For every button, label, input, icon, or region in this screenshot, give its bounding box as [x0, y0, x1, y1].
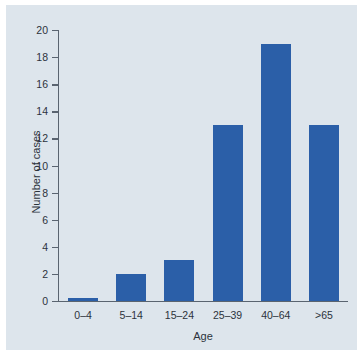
y-axis-tick-label: 4 [8, 242, 48, 253]
y-axis-tick [52, 220, 58, 221]
bar[interactable] [213, 125, 243, 301]
bar-series [59, 30, 348, 301]
chart-figure: 02468101214161820 Number of cases 0–45–1… [6, 5, 357, 350]
y-axis-tick-label: 20 [8, 25, 48, 36]
bar[interactable] [68, 298, 98, 301]
x-axis-title: Age [58, 330, 348, 342]
bar[interactable] [164, 260, 194, 301]
y-axis-tick-label: 18 [8, 52, 48, 63]
y-axis-tick [52, 138, 58, 139]
bar[interactable] [261, 44, 291, 301]
bar-slot [107, 30, 155, 301]
y-axis-title: Number of cases [30, 92, 42, 252]
y-axis-tick-label: 12 [8, 133, 48, 144]
plot-area: 02468101214161820 Number of cases 0–45–1… [6, 5, 357, 350]
y-axis-tick-label: 2 [8, 269, 48, 280]
bar-slot [252, 30, 300, 301]
bar-slot [155, 30, 203, 301]
y-axis-tick-label: 6 [8, 214, 48, 225]
y-axis-tick-label: 8 [8, 187, 48, 198]
x-axis-line [58, 301, 348, 302]
y-axis-tick-label: 0 [8, 296, 48, 307]
bar-slot [204, 30, 252, 301]
y-axis-tick [52, 57, 58, 58]
bar[interactable] [309, 125, 339, 301]
bar-slot [300, 30, 348, 301]
y-axis-tick [52, 301, 58, 302]
bar-slot [59, 30, 107, 301]
y-axis-tick [52, 30, 58, 31]
y-axis-tick [52, 111, 58, 112]
y-axis-tick [52, 166, 58, 167]
y-axis-tick-label: 10 [8, 160, 48, 171]
y-axis-tick-label: 16 [8, 79, 48, 90]
y-axis-tick [52, 193, 58, 194]
y-axis-tick [52, 247, 58, 248]
bar[interactable] [116, 274, 146, 301]
y-axis-tick-label: 14 [8, 106, 48, 117]
y-axis-tick [52, 274, 58, 275]
y-axis-tick [52, 84, 58, 85]
x-axis-tick-label: >65 [294, 309, 354, 321]
